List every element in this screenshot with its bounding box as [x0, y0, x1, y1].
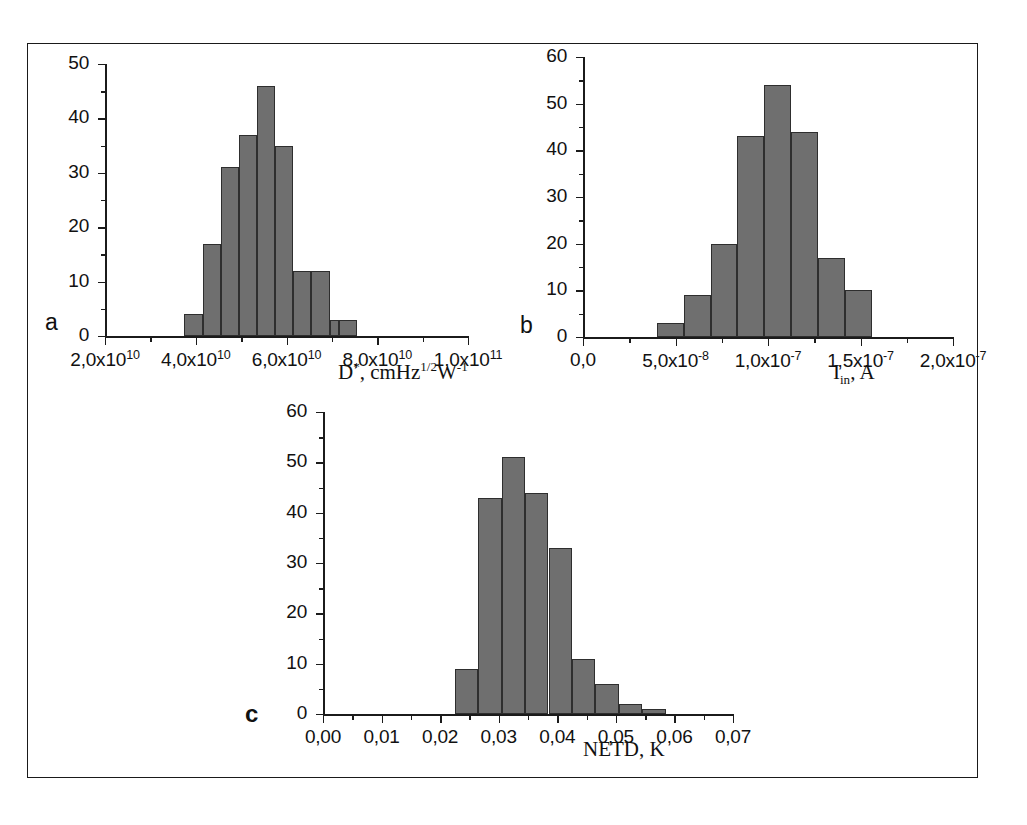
histogram-bar: [239, 135, 257, 336]
y-minor-tick-c: [319, 689, 324, 690]
x-tick-a: [287, 337, 288, 345]
axis-title-a: D*, cmHz1/2W-1: [338, 359, 468, 385]
axis-title-b: Iin, A: [833, 360, 875, 388]
x-tick-c: [323, 715, 324, 723]
y-minor-tick-a: [101, 254, 106, 255]
histogram-bar: [275, 146, 293, 336]
panel-label-b: b: [520, 312, 533, 339]
y-tick-label-b: 20: [515, 232, 567, 254]
x-minor-tick-b: [722, 338, 723, 343]
x-minor-tick-a: [241, 337, 242, 342]
x-minor-tick-a: [150, 337, 151, 342]
y-tick-a: [98, 173, 106, 174]
x-tick-b: [861, 338, 862, 346]
y-minor-tick-b: [579, 220, 584, 221]
y-tick-b: [576, 197, 584, 198]
y-tick-label-c: 0: [255, 702, 307, 724]
histogram-bar: [257, 86, 275, 336]
y-minor-tick-b: [579, 314, 584, 315]
panel-b: 01020304050600,05,0x10-81,0x10-71,5x10-7…: [498, 44, 978, 374]
y-tick-c: [316, 412, 324, 413]
histogram-bar: [478, 498, 501, 714]
histogram-bar: [293, 271, 311, 336]
y-tick-a: [98, 118, 106, 119]
x-minor-tick-c: [587, 715, 588, 720]
x-tick-c: [382, 715, 383, 723]
plot-area-c: 01020304050600,000,010,020,030,040,050,0…: [233, 392, 773, 772]
histogram-bar: [549, 548, 572, 714]
y-tick-c: [316, 563, 324, 564]
x-tick-label-b: 2,0x10-7: [893, 349, 1013, 372]
x-tick-b: [953, 338, 954, 346]
histogram-bar: [791, 132, 818, 337]
y-minor-tick-c: [319, 588, 324, 589]
histogram-bar: [311, 271, 329, 336]
x-minor-tick-b: [814, 338, 815, 343]
histogram-bar: [684, 295, 711, 337]
y-minor-tick-c: [319, 538, 324, 539]
y-tick-c: [316, 613, 324, 614]
y-minor-tick-a: [101, 309, 106, 310]
panel-label-a: a: [45, 309, 58, 336]
x-minor-tick-c: [645, 715, 646, 720]
x-tick-c: [499, 715, 500, 723]
x-tick-b: [768, 338, 769, 346]
histogram-bar: [221, 167, 239, 336]
histogram-bar: [339, 320, 357, 336]
y-tick-b: [576, 290, 584, 291]
y-tick-label-b: 30: [515, 185, 567, 207]
x-minor-tick-a: [332, 337, 333, 342]
y-tick-c: [316, 462, 324, 463]
plot-area-a: 010203040502,0x10104,0x10106,0x10108,0x1…: [28, 44, 498, 374]
y-tick-label-c: 10: [255, 652, 307, 674]
y-tick-label-b: 50: [515, 92, 567, 114]
y-minor-tick-a: [101, 200, 106, 201]
x-minor-tick-c: [469, 715, 470, 720]
y-minor-tick-c: [319, 437, 324, 438]
y-tick-a: [98, 282, 106, 283]
x-tick-a: [468, 337, 469, 345]
y-tick-b: [576, 57, 584, 58]
x-tick-c: [557, 715, 558, 723]
y-tick-b: [576, 104, 584, 105]
x-tick-a: [105, 337, 106, 345]
histogram-bar: [572, 659, 595, 714]
panel-label-c: c: [245, 700, 258, 728]
y-tick-label-c: 50: [255, 450, 307, 472]
y-tick-label-c: 30: [255, 551, 307, 573]
y-tick-label-b: 40: [515, 138, 567, 160]
histogram-bar: [184, 314, 202, 336]
plot-area-b: 01020304050600,05,0x10-81,0x10-71,5x10-7…: [498, 44, 978, 374]
histogram-bar: [764, 85, 791, 337]
y-tick-c: [316, 664, 324, 665]
y-minor-tick-b: [579, 267, 584, 268]
y-minor-tick-a: [101, 91, 106, 92]
x-tick-c: [616, 715, 617, 723]
y-tick-label-c: 40: [255, 501, 307, 523]
x-tick-label-c: 0,07: [673, 726, 793, 748]
x-minor-tick-c: [411, 715, 412, 720]
x-tick-a: [196, 337, 197, 345]
y-minor-tick-b: [579, 174, 584, 175]
x-minor-tick-c: [704, 715, 705, 720]
panel-a: 010203040502,0x10104,0x10106,0x10108,0x1…: [28, 44, 498, 374]
y-minor-tick-b: [579, 127, 584, 128]
panel-c: 01020304050600,000,010,020,030,040,050,0…: [233, 392, 773, 772]
histogram-bar: [845, 290, 872, 337]
x-minor-tick-b: [907, 338, 908, 343]
x-minor-tick-c: [352, 715, 353, 720]
histogram-bar: [737, 136, 764, 337]
y-tick-label-a: 50: [37, 52, 89, 74]
y-tick-label-a: 40: [37, 106, 89, 128]
x-tick-b: [676, 338, 677, 346]
x-minor-tick-a: [423, 337, 424, 342]
x-minor-tick-c: [528, 715, 529, 720]
axis-title-c: NETD, K: [583, 737, 665, 762]
histogram-bar: [203, 244, 221, 336]
x-tick-b: [583, 338, 584, 346]
y-tick-label-c: 20: [255, 601, 307, 623]
y-tick-label-a: 20: [37, 215, 89, 237]
histogram-bar: [330, 320, 339, 336]
histogram-bar: [502, 457, 525, 714]
histogram-bar: [657, 323, 684, 337]
